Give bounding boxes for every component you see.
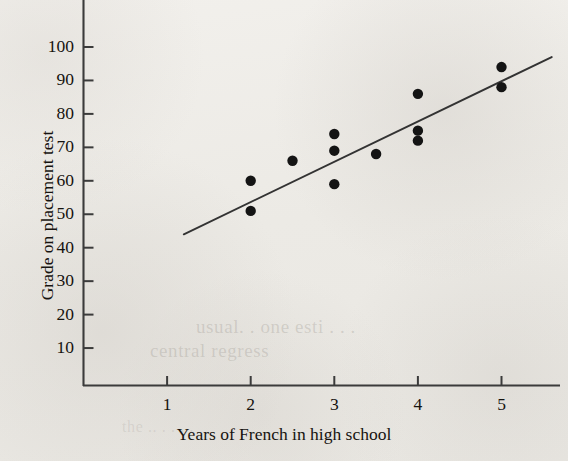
y-axis-ticks bbox=[84, 47, 94, 348]
data-point bbox=[371, 149, 381, 159]
x-axis-tick-label: 3 bbox=[319, 394, 349, 415]
y-axis-tick-label: 30 bbox=[34, 270, 74, 291]
x-axis-title: Years of French in high school bbox=[0, 424, 568, 445]
scatter-plot-figure: usual. . one esti . . . central regress … bbox=[0, 0, 568, 461]
data-point bbox=[329, 145, 339, 155]
y-axis-tick-label: 90 bbox=[34, 69, 74, 90]
data-point bbox=[413, 125, 423, 135]
axes bbox=[83, 0, 560, 386]
data-point bbox=[287, 156, 297, 166]
y-axis-tick-label: 50 bbox=[34, 203, 74, 224]
y-axis-tick-label: 40 bbox=[34, 237, 74, 258]
x-axis-tick-label: 2 bbox=[236, 394, 266, 415]
data-point bbox=[496, 62, 506, 72]
data-point bbox=[329, 179, 339, 189]
y-axis-tick-label: 60 bbox=[34, 170, 74, 191]
x-axis-tick-label: 1 bbox=[152, 394, 182, 415]
data-point bbox=[496, 82, 506, 92]
data-point bbox=[329, 129, 339, 139]
data-point bbox=[246, 176, 256, 186]
x-axis-tick-label: 5 bbox=[487, 394, 517, 415]
y-axis-tick-label: 100 bbox=[34, 36, 74, 57]
data-point bbox=[413, 89, 423, 99]
x-axis-tick-label: 4 bbox=[403, 394, 433, 415]
data-point bbox=[413, 135, 423, 145]
least-squares-line bbox=[184, 57, 552, 234]
plot-canvas bbox=[0, 0, 568, 461]
data-point bbox=[246, 206, 256, 216]
y-axis-tick-label: 70 bbox=[34, 136, 74, 157]
data-points bbox=[246, 62, 507, 216]
y-axis-tick-label: 80 bbox=[34, 103, 74, 124]
regression-line bbox=[184, 57, 552, 234]
y-axis-tick-label: 10 bbox=[34, 337, 74, 358]
y-axis-tick-label: 20 bbox=[34, 304, 74, 325]
